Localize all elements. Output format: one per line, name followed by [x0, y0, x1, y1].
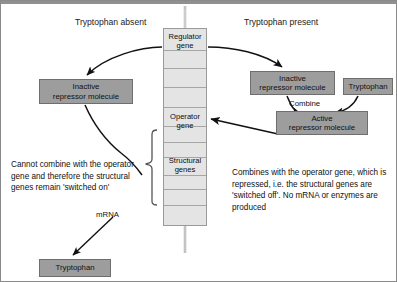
- box-inactive-repressor-left: Inactive repressor molecule: [39, 79, 133, 104]
- gene-segment-divider: [164, 205, 206, 206]
- arrow-mrna-to-tryptophan: [73, 217, 113, 255]
- operator-gene-label-line1: Operator: [170, 112, 200, 121]
- column-title-left: Tryptophan absent: [75, 17, 146, 27]
- box-tryptophan-right: Tryptophan: [343, 78, 393, 95]
- box-inactive-repressor-right: Inactive repressor molecule: [250, 71, 335, 95]
- box-inactive-right-line1: Inactive: [259, 74, 325, 83]
- gene-segment-divider: [164, 68, 206, 69]
- gene-segment-divider: [164, 87, 206, 88]
- regulator-gene-label-line2: gene: [177, 41, 194, 50]
- box-inactive-left-line2: repressor molecule: [53, 92, 119, 101]
- regulator-gene-label-line1: Regulator: [169, 32, 202, 41]
- operator-gene-label: Operator gene: [163, 112, 207, 130]
- gene-segment-divider: [164, 175, 206, 176]
- arrow-regulator-to-inactive-right: [208, 47, 282, 67]
- column-title-right: Tryptophan present: [244, 17, 318, 27]
- arrow-regulator-to-inactive-left: [87, 47, 162, 75]
- structural-genes-label-line2: genes: [175, 165, 196, 174]
- box-active-right-line1: Active: [289, 114, 355, 123]
- arrow-active-to-operator: [211, 119, 278, 134]
- combine-label: Combine: [289, 98, 320, 110]
- gene-segment-divider: [164, 50, 206, 51]
- structural-genes-label-line1: Structural: [169, 156, 202, 165]
- regulator-gene-label: Regulator gene: [163, 32, 207, 50]
- box-active-repressor-right: Active repressor molecule: [276, 111, 368, 135]
- gene-segment-divider: [164, 189, 206, 190]
- diagram-page: UNIT 11B THE GENETIC CODE: [0, 0, 397, 282]
- gene-segment-divider: [164, 107, 206, 108]
- mrna-label: mRNA: [96, 209, 119, 221]
- gene-segment-divider: [164, 142, 206, 143]
- operator-gene-label-line2: gene: [177, 121, 194, 130]
- box-inactive-right-line2: repressor molecule: [259, 83, 325, 92]
- box-inactive-left-line1: Inactive: [53, 82, 119, 91]
- note-left: Cannot combine with the operator gene an…: [11, 159, 135, 194]
- box-active-right-line2: repressor molecule: [289, 123, 355, 132]
- structural-genes-bracket: [146, 130, 157, 205]
- note-right: Combines with the operator gene, which i…: [232, 167, 392, 213]
- arrow-inactive-left-down: [85, 105, 121, 153]
- box-tryptophan-bottom: Tryptophan: [39, 259, 111, 277]
- structural-genes-label: Structural genes: [163, 156, 207, 174]
